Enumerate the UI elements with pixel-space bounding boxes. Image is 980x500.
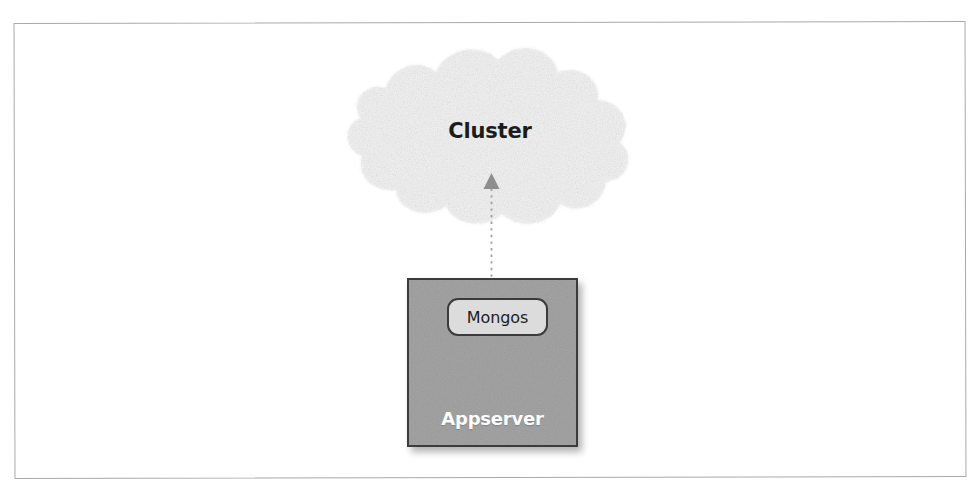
appserver-label: Appserver (409, 408, 576, 429)
page-canvas: Cluster (0, 0, 980, 500)
diagram-figure: Cluster (0, 0, 980, 500)
appserver-to-cluster-connector (460, 160, 524, 290)
mongos-node: Mongos (447, 298, 548, 336)
appserver-node: Mongos Appserver (407, 278, 578, 447)
arrowhead-icon (484, 173, 500, 189)
mongos-label: Mongos (467, 308, 528, 327)
cluster-label: Cluster (340, 119, 640, 143)
